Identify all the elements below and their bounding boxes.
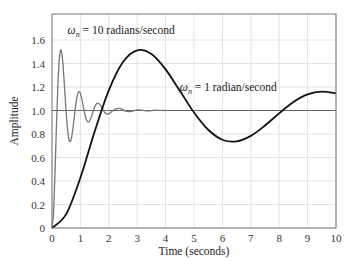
- y-tick-label: 0.6: [31, 152, 45, 164]
- x-tick-label: 10: [331, 232, 343, 244]
- x-tick-label: 5: [191, 232, 197, 244]
- y-tick-label: 1.2: [31, 81, 45, 93]
- x-tick-label: 0: [49, 232, 55, 244]
- series-annotations: ωn = 10 radians/secondωn = 1 radian/seco…: [68, 24, 277, 95]
- y-tick-label: 0.8: [31, 128, 45, 140]
- y-tick-label: 1.0: [31, 105, 45, 117]
- y-axis-label: Amplitude: [8, 96, 21, 145]
- y-tick-label: 0.4: [31, 175, 45, 187]
- y-tick-label: 0: [40, 222, 46, 234]
- series-label: ωn = 10 radians/second: [68, 24, 175, 39]
- y-axis-ticks: 00.20.40.60.81.01.21.41.6: [31, 34, 45, 234]
- x-axis-ticks: 012345678910: [49, 232, 342, 244]
- x-tick-label: 9: [305, 232, 311, 244]
- x-tick-label: 7: [248, 232, 254, 244]
- step-response-chart: 012345678910 00.20.40.60.81.01.21.41.6 ω…: [0, 0, 359, 272]
- x-tick-label: 8: [276, 232, 282, 244]
- x-tick-label: 3: [134, 232, 140, 244]
- y-tick-label: 0.2: [31, 199, 45, 211]
- y-tick-label: 1.4: [31, 58, 45, 70]
- grid-lines: [52, 14, 336, 228]
- y-tick-label: 1.6: [31, 34, 45, 46]
- x-tick-label: 4: [163, 232, 169, 244]
- x-tick-label: 6: [220, 232, 226, 244]
- x-tick-label: 1: [78, 232, 84, 244]
- x-axis-label: Time (seconds): [159, 245, 230, 258]
- x-tick-label: 2: [106, 232, 112, 244]
